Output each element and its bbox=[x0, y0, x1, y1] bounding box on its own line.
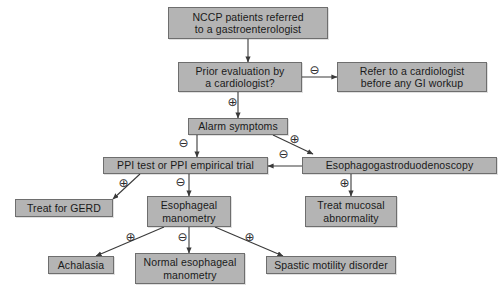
node-treat-gerd[interactable]: Treat for GERD bbox=[15, 199, 113, 217]
flowchart-diagram: NCCP patients referred to a gastroentero… bbox=[0, 0, 504, 295]
sign-minus-alarm-to-ppi: ⊖ bbox=[177, 137, 190, 150]
node-label-prior-eval: Prior evaluation by a cardiologist? bbox=[183, 65, 297, 90]
node-label-treat-mucosal: Treat mucosal abnormality bbox=[310, 199, 392, 224]
node-refer-cardiologist[interactable]: Refer to a cardiologist before any GI wo… bbox=[337, 62, 487, 92]
node-label-alarm-symptoms: Alarm symptoms bbox=[193, 120, 283, 132]
node-egd[interactable]: Esophagogastroduodenoscopy bbox=[302, 157, 497, 174]
node-spastic-disorder[interactable]: Spastic motility disorder bbox=[266, 256, 396, 274]
node-label-esoph-manometry: Esophageal manometry bbox=[152, 199, 226, 224]
node-label-spastic-disorder: Spastic motility disorder bbox=[271, 259, 391, 271]
sign-plus-manometry-to-spastic: ⊕ bbox=[243, 231, 256, 244]
connector-layer bbox=[0, 0, 504, 295]
node-label-normal-manometry: Normal esophageal manometry bbox=[140, 256, 240, 281]
node-nccp[interactable]: NCCP patients referred to a gastroentero… bbox=[168, 7, 328, 39]
sign-plus-alarm-to-egd: ⊕ bbox=[288, 133, 301, 146]
node-achalasia[interactable]: Achalasia bbox=[48, 256, 114, 274]
sign-plus-manometry-to-achalasia: ⊕ bbox=[124, 231, 137, 244]
node-label-treat-gerd: Treat for GERD bbox=[20, 202, 108, 214]
node-treat-mucosal[interactable]: Treat mucosal abnormality bbox=[305, 196, 397, 227]
sign-minus-ppi-to-manometry: ⊖ bbox=[174, 176, 187, 189]
node-label-refer-cardiologist: Refer to a cardiologist before any GI wo… bbox=[342, 65, 482, 90]
sign-plus-ppi-to-gerd: ⊕ bbox=[117, 177, 130, 190]
node-label-nccp: NCCP patients referred to a gastroentero… bbox=[173, 11, 323, 36]
node-label-ppi-test: PPI test or PPI empirical trial bbox=[108, 159, 263, 171]
node-prior-eval[interactable]: Prior evaluation by a cardiologist? bbox=[178, 62, 302, 92]
node-alarm-symptoms[interactable]: Alarm symptoms bbox=[188, 118, 288, 135]
sign-plus-prior-to-alarm: ⊕ bbox=[226, 96, 239, 109]
node-ppi-test[interactable]: PPI test or PPI empirical trial bbox=[103, 157, 268, 174]
node-label-egd: Esophagogastroduodenoscopy bbox=[307, 159, 492, 171]
sign-minus-manometry-to-normal: ⊖ bbox=[176, 231, 189, 244]
sign-minus-egd-to-ppi: ⊖ bbox=[277, 148, 290, 161]
node-esoph-manometry[interactable]: Esophageal manometry bbox=[147, 196, 231, 227]
sign-plus-egd-to-mucosal: ⊕ bbox=[338, 177, 351, 190]
node-label-achalasia: Achalasia bbox=[53, 259, 109, 271]
sign-minus-prior-to-refer: ⊖ bbox=[308, 64, 321, 77]
node-normal-manometry[interactable]: Normal esophageal manometry bbox=[135, 253, 245, 284]
